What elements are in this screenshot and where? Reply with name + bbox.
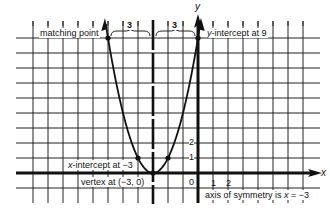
axis-sym-pre: axis of symmetry is [205, 190, 284, 200]
point-marker [150, 170, 155, 175]
y-tick-label-1: 1 [189, 152, 194, 162]
point-marker [195, 35, 200, 40]
tick-marks [33, 21, 303, 26]
matching-point-label: matching point [39, 28, 100, 38]
y-tick-label-2: 2 [189, 137, 194, 147]
bracket-left-label: 3 [127, 20, 132, 30]
y-intercept-text: -intercept at 9 [212, 28, 267, 38]
x-tick-label-1: 1 [211, 178, 216, 188]
axis-sym-post: = −3 [289, 190, 310, 200]
x-intercept-text: -intercept at −3 [73, 160, 133, 170]
grid-lines [16, 21, 320, 203]
axis-of-symmetry-label: axis of symmetry is x = −3 [204, 190, 310, 200]
x-tick-label-2: 2 [226, 178, 231, 188]
origin-label: 0 [189, 177, 194, 187]
y-intercept-label: y-intercept at 9 [206, 28, 268, 38]
y-axis-label: y [195, 2, 200, 12]
point-marker [105, 35, 110, 40]
vertex-label: vertex at (−3, 0) [80, 177, 145, 187]
point-marker [135, 155, 140, 160]
axes [16, 14, 322, 204]
x-axis-label: x [321, 168, 326, 178]
x-intercept-label: x-intercept at −3 [67, 160, 134, 170]
point-marker [165, 155, 170, 160]
bracket-right-label: 3 [172, 20, 177, 30]
